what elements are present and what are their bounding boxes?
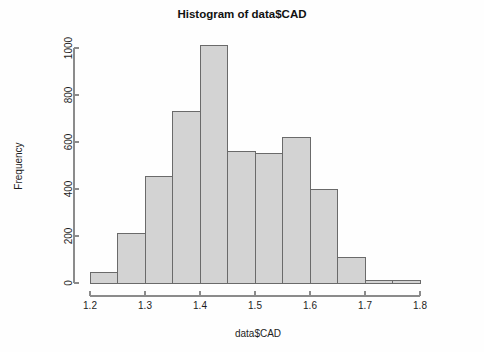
x-axis-tick-label: 1.2: [83, 300, 97, 311]
histogram-bar: [200, 46, 228, 283]
histogram-bar: [145, 177, 173, 283]
x-axis-tick-label: 1.6: [303, 300, 317, 311]
histogram-bar: [310, 190, 338, 283]
x-axis-tick-label: 1.5: [248, 300, 262, 311]
page-title: Histogram of data$CAD: [177, 8, 306, 20]
histogram-bar: [173, 112, 201, 283]
histogram-svg: 1.21.31.41.51.61.71.8 02004006008001000 …: [0, 0, 484, 352]
histogram-bar: [118, 234, 146, 283]
y-axis-tick-label: 600: [63, 133, 74, 150]
histogram-bar: [338, 257, 366, 283]
histogram-bar: [255, 153, 283, 283]
x-axis-tick-label: 1.7: [358, 300, 372, 311]
histogram-plot-panel: 1.21.31.41.51.61.71.8 02004006008001000 …: [0, 0, 484, 352]
x-axis-tick-label: 1.4: [193, 300, 207, 311]
histogram-bar: [90, 272, 118, 283]
histogram-bar: [393, 281, 421, 283]
histogram-bar: [283, 138, 311, 283]
y-axis-tick-label: 400: [63, 180, 74, 197]
histogram-bar: [365, 280, 393, 283]
x-axis-label: data$CAD: [235, 328, 281, 339]
y-axis-tick-label: 200: [63, 227, 74, 244]
x-axis-tick-label: 1.8: [413, 300, 427, 311]
y-axis-label: Frequency: [13, 142, 24, 189]
y-axis: 02004006008001000: [63, 36, 80, 285]
y-axis-tick-label: 1000: [63, 36, 74, 59]
y-axis-tick-label: 800: [63, 86, 74, 103]
histogram-bar: [228, 151, 256, 283]
y-axis-tick-label: 0: [63, 280, 74, 286]
histogram-bars: [90, 46, 420, 283]
x-axis: 1.21.31.41.51.61.71.8: [83, 291, 427, 311]
x-axis-tick-label: 1.3: [138, 300, 152, 311]
